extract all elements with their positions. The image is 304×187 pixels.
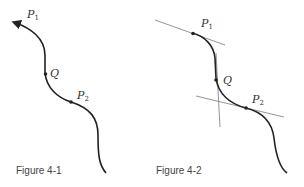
figure-4-1: P1 Q P2 Figure 4-1: [16, 8, 106, 176]
label-q: Q: [223, 74, 232, 87]
label-p1: P1: [200, 17, 213, 31]
tangent-p1: [155, 20, 225, 45]
label-p1: P1: [26, 8, 39, 22]
label-q: Q: [50, 67, 59, 80]
figures-canvas: P1 Q P2 Figure 4-1 P1 Q P2 Figure 4-2: [0, 0, 304, 187]
caption: Figure 4-1: [16, 165, 62, 176]
caption: Figure 4-2: [156, 165, 202, 176]
figure-4-2: P1 Q P2 Figure 4-2: [155, 17, 287, 176]
point-q-dot: [44, 72, 48, 76]
label-p2: P2: [76, 89, 89, 103]
curve: [192, 33, 287, 173]
curve: [16, 23, 106, 173]
point-q-dot: [214, 78, 218, 82]
point-p1-dot: [191, 32, 195, 36]
point-p2-dot: [69, 100, 73, 104]
point-p2-dot: [244, 106, 248, 110]
label-p2: P2: [251, 93, 264, 107]
